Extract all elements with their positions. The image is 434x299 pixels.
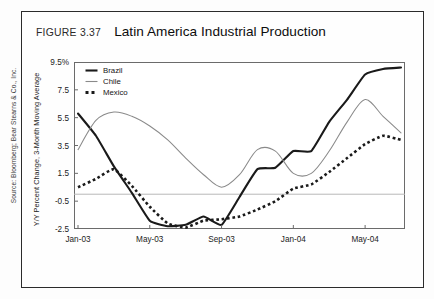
series-line-mexico: [78, 136, 401, 228]
x-axis-tick-labels: Jan-03May-03Sep-03Jan-04May-04: [74, 235, 405, 249]
x-tick-label: Jan-03: [65, 235, 90, 244]
y-tick-label: 9.5%: [50, 58, 69, 67]
legend-label: Mexico: [103, 88, 128, 97]
source-note: Source: Bloomberg; Bear Stearns & Co., I…: [10, 61, 17, 211]
y-axis-tick-labels: 9.5%7.55.53.51.5-0.5-2.5: [36, 62, 69, 229]
y-tick-label: 5.5: [58, 113, 69, 122]
legend-swatch-icon: [85, 66, 98, 75]
y-tick-label: -0.5: [55, 197, 69, 206]
legend-item-mexico: Mexico: [85, 88, 128, 97]
figure-root: Source: Bloomberg; Bear Stearns & Co., I…: [0, 0, 434, 299]
y-tick-label: -2.5: [55, 225, 69, 234]
legend-swatch-icon: [85, 77, 98, 86]
x-tick-label: Jan-04: [281, 235, 306, 244]
y-tick-label: 1.5: [58, 169, 69, 178]
chart-legend: BrazilChileMexico: [85, 66, 128, 97]
legend-label: Chile: [103, 77, 121, 86]
figure-title-row: FIGURE 3.37 Latin America Industrial Pro…: [36, 24, 326, 39]
figure-number: FIGURE 3.37: [36, 27, 101, 38]
legend-swatch-icon: [85, 88, 98, 97]
x-tick-label: Sep-03: [208, 235, 234, 244]
series-line-chile: [78, 100, 401, 188]
x-tick-label: May-03: [136, 235, 163, 244]
y-tick-label: 7.5: [58, 85, 69, 94]
legend-label: Brazil: [103, 66, 123, 75]
x-tick-label: May-04: [351, 235, 378, 244]
y-tick-label: 3.5: [58, 141, 69, 150]
page-title: Latin America Industrial Production: [114, 24, 326, 39]
legend-item-chile: Chile: [85, 77, 128, 86]
legend-item-brazil: Brazil: [85, 66, 128, 75]
